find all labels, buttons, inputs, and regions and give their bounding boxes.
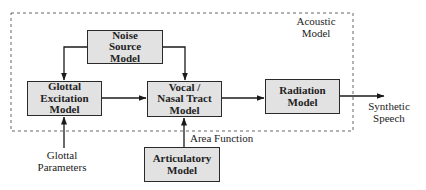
block-label: Radiation Model	[279, 85, 325, 108]
block-label: Vocal / Nasal Tract Model	[157, 82, 211, 117]
glottal-parameters-label: Glottal Parameters	[22, 150, 102, 173]
block-articulatory-model: Articulatory Model	[144, 147, 220, 182]
edge-noise-to-vocal	[163, 47, 185, 80]
block-label: Noise Source Model	[109, 30, 141, 65]
block-glottal-excitation-model: Glottal Excitation Model	[27, 81, 102, 116]
synthetic-speech-label: Synthetic Speech	[358, 101, 420, 124]
block-label: Glottal Excitation Model	[40, 81, 88, 116]
block-noise-source-model: Noise Source Model	[87, 30, 163, 64]
edge-noise-to-glottal	[64, 47, 87, 80]
area-function-label: Area Function	[190, 133, 282, 145]
block-vocal-nasal-tract-model: Vocal / Nasal Tract Model	[147, 81, 222, 117]
block-radiation-model: Radiation Model	[265, 79, 340, 114]
acoustic-model-label: Acoustic Model	[288, 16, 344, 39]
block-label: Articulatory Model	[153, 153, 212, 176]
